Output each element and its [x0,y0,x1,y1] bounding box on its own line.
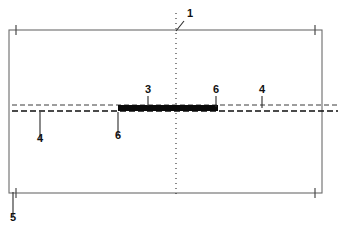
diagram-canvas: 1364645 [0,0,341,226]
callout-6-right: 6 [213,83,219,95]
callout-labels: 1364645 [10,7,266,223]
callout-6-left: 6 [115,129,121,141]
leader-lines [13,21,262,217]
callout-5: 5 [10,211,16,223]
callout-1: 1 [187,7,193,19]
callout-4-left: 4 [37,132,44,144]
callout-3: 3 [145,83,151,95]
callout-4-right: 4 [259,83,266,95]
technical-drawing-figure: 1364645 [0,0,341,226]
